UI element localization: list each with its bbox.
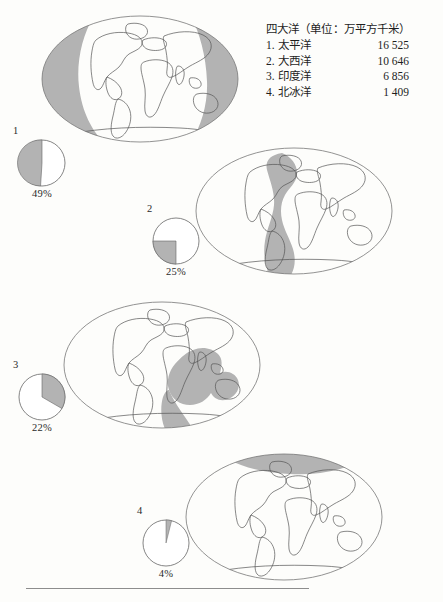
pie-chart-panel-2: 2 25% — [146, 206, 206, 278]
pie-chart-panel-1: 1 49% — [12, 128, 72, 200]
legend-row-name: 北冰洋 — [278, 85, 340, 100]
legend-row-name: 印度洋 — [278, 69, 340, 84]
pie-svg-4 — [141, 518, 191, 568]
legend-row-name: 大西洋 — [278, 54, 340, 69]
map-svg-indian — [62, 300, 262, 430]
map-svg-pacific — [40, 14, 240, 144]
panel-index-3: 3 — [13, 360, 18, 371]
pie-percent-label-2: 25% — [146, 267, 206, 278]
panel-index-1: 1 — [13, 126, 18, 137]
panel-index-4: 4 — [137, 506, 142, 517]
legend-row: 4. 北冰洋 1 409 — [266, 85, 441, 100]
pie-percent-label-3: 22% — [12, 423, 72, 434]
legend-row-index: 4. — [266, 85, 278, 100]
pie-chart-panel-3: 3 22% — [12, 362, 72, 434]
legend-row-value: 10 646 — [340, 54, 441, 69]
ocean-area-legend-table: 四大洋（单位：万平方千米） 1. 太平洋 16 525 2. 大西洋 10 64… — [266, 22, 441, 100]
ocean-highlight-arctic — [204, 452, 368, 474]
legend-title: 四大洋（单位：万平方千米） — [266, 22, 441, 37]
pie-percent-label-1: 49% — [12, 189, 72, 200]
pie-percent-label-4: 4% — [136, 569, 196, 580]
world-map-pacific — [40, 14, 240, 144]
ocean-highlight-pacific — [40, 14, 240, 144]
legend-row: 3. 印度洋 6 856 — [266, 69, 441, 84]
legend-row-index: 3. — [266, 69, 278, 84]
world-map-indian — [62, 300, 262, 430]
legend-row-value: 1 409 — [340, 85, 441, 100]
legend-row-index: 1. — [266, 38, 278, 53]
pie-svg-2 — [151, 216, 201, 266]
pie-svg-1 — [17, 138, 67, 188]
world-map-atlantic — [194, 146, 394, 276]
pie-svg-3 — [17, 372, 67, 422]
legend-row-name: 太平洋 — [278, 38, 340, 53]
footer-divider — [26, 588, 309, 589]
coastlines — [214, 461, 366, 582]
ocean-area-infographic: 四大洋（单位：万平方千米） 1. 太平洋 16 525 2. 大西洋 10 64… — [0, 0, 443, 602]
legend-row-value: 6 856 — [340, 69, 441, 84]
world-map-arctic — [184, 452, 384, 582]
coastlines — [224, 155, 376, 276]
map-svg-arctic — [184, 452, 384, 582]
map-svg-atlantic — [194, 146, 394, 276]
legend-row: 1. 太平洋 16 525 — [266, 38, 441, 53]
legend-row-value: 16 525 — [340, 38, 441, 53]
pie-chart-panel-4: 4 4% — [136, 508, 196, 580]
panel-index-2: 2 — [147, 204, 152, 215]
legend-row-index: 2. — [266, 54, 278, 69]
legend-row: 2. 大西洋 10 646 — [266, 54, 441, 69]
